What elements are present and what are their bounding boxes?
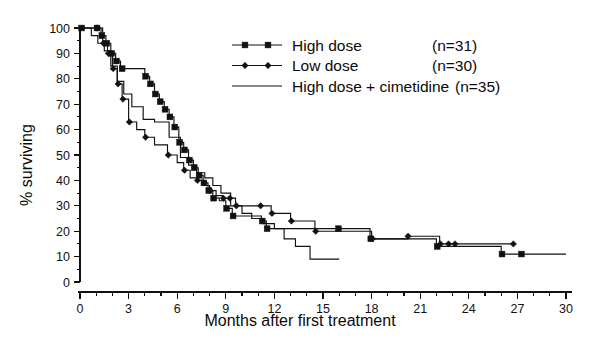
censor-marker-square — [167, 114, 173, 120]
censor-marker-diamond — [142, 134, 148, 140]
censor-marker-square — [172, 124, 178, 130]
y-tick-label: 80 — [56, 72, 70, 86]
y-tick-label: 70 — [56, 98, 70, 112]
censor-marker-diamond — [510, 241, 516, 247]
censor-marker-diamond — [227, 195, 233, 201]
y-tick-label: 100 — [49, 22, 70, 36]
censor-marker-diamond — [265, 62, 271, 68]
censor-marker-square — [182, 147, 188, 153]
x-axis-title: Months after first treatment — [204, 312, 396, 329]
censor-marker-square — [242, 42, 248, 48]
censor-marker-diamond — [257, 203, 263, 209]
censor-marker-diamond — [288, 218, 294, 224]
legend-label: High dose + cimetidine — [292, 78, 449, 95]
censor-marker-square — [152, 91, 158, 97]
y-tick-label: 90 — [56, 47, 70, 61]
censor-marker-square — [519, 251, 525, 257]
legend-label: Low dose — [292, 57, 358, 74]
censor-marker-square — [99, 33, 105, 39]
censor-marker-square — [191, 165, 197, 171]
censor-marker-square — [148, 81, 154, 87]
y-axis-tick-labels: 0102030405060708090100 — [49, 22, 70, 290]
chart-legend: High dose(n=31)Low dose(n=30)High dose +… — [232, 37, 500, 95]
censor-marker-square — [114, 58, 120, 64]
survival-plot-svg: 0102030405060708090100 % surviving 03691… — [0, 0, 590, 338]
x-axis-group: 036912151821242730 Months after first tr… — [77, 292, 573, 329]
legend-sample-size: (n=35) — [455, 78, 500, 95]
censor-marker-square — [119, 66, 125, 72]
x-tick-label: 24 — [462, 302, 476, 316]
legend-item-2: High dose + cimetidine(n=35) — [232, 78, 500, 95]
censor-marker-square — [230, 213, 236, 219]
x-tick-label: 6 — [174, 302, 181, 316]
x-axis-major-ticks — [80, 292, 566, 299]
censor-marker-square — [201, 180, 207, 186]
censor-marker-square — [224, 205, 230, 211]
y-tick-label: 10 — [56, 250, 70, 264]
legend-item-0: High dose(n=31) — [232, 37, 477, 54]
x-tick-label: 3 — [125, 302, 132, 316]
survival-chart-figure: 0102030405060708090100 % surviving 03691… — [0, 0, 590, 338]
x-tick-label: 0 — [77, 302, 84, 316]
censor-marker-square — [186, 157, 192, 163]
censor-marker-square — [499, 251, 505, 257]
x-tick-label: 27 — [510, 302, 524, 316]
censor-marker-diamond — [233, 203, 239, 209]
censor-marker-diamond — [165, 152, 171, 158]
censor-marker-diamond — [242, 62, 248, 68]
censor-marker-square — [265, 42, 271, 48]
legend-label: High dose — [292, 37, 362, 54]
censor-marker-square — [259, 218, 265, 224]
censor-marker-square — [264, 226, 270, 232]
y-tick-label: 0 — [63, 276, 70, 290]
legend-sample-size: (n=30) — [432, 57, 477, 74]
y-axis-group: 0102030405060708090100 % surviving — [18, 22, 80, 290]
x-tick-label: 21 — [413, 302, 427, 316]
censor-marker-diamond — [126, 119, 132, 125]
x-tick-label: 30 — [559, 302, 573, 316]
censor-marker-square — [79, 25, 85, 31]
y-axis-title: % surviving — [18, 124, 35, 206]
censor-marker-diamond — [269, 210, 275, 216]
y-tick-label: 40 — [56, 174, 70, 188]
censor-marker-square — [335, 226, 341, 232]
censor-marker-diamond — [120, 96, 126, 102]
censor-marker-square — [177, 139, 183, 145]
y-tick-label: 30 — [56, 199, 70, 213]
censor-marker-square — [162, 106, 168, 112]
censor-marker-diamond — [181, 167, 187, 173]
y-tick-label: 60 — [56, 123, 70, 137]
y-tick-label: 20 — [56, 225, 70, 239]
censor-marker-square — [157, 99, 163, 105]
legend-item-1: Low dose(n=30) — [232, 57, 477, 74]
y-tick-label: 50 — [56, 149, 70, 163]
censor-marker-square — [143, 73, 149, 79]
censor-marker-square — [211, 195, 217, 201]
legend-sample-size: (n=31) — [432, 37, 477, 54]
